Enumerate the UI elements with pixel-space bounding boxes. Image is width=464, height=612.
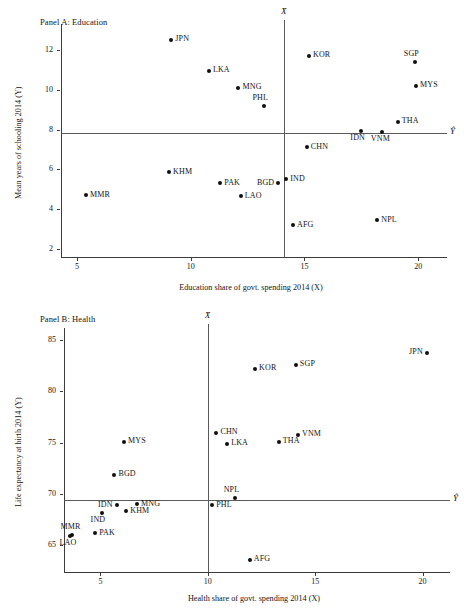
data-point-label: JPN: [379, 347, 423, 356]
data-point-label: BGD: [118, 469, 135, 478]
x-tick: [191, 258, 192, 261]
data-point: [307, 54, 311, 58]
x-axis-title: Education share of govt. spending 2014 (…: [61, 283, 441, 292]
panel-b-health: Panel B: Health 51015206570758085X̄ŶJPN…: [0, 300, 464, 612]
y-tick: [57, 50, 60, 51]
data-point-label: CHN: [311, 142, 328, 151]
data-point: [284, 177, 288, 181]
data-point-label: MMR: [61, 522, 81, 531]
y-axis-title: Life expectancy at birth 2014 (Y): [14, 397, 23, 507]
data-point-label: LAO: [59, 538, 76, 547]
data-point: [169, 38, 173, 42]
data-point-label: MMR: [90, 190, 110, 199]
panel-a-education: Panel A: Education 510152024681012X̄ŶJP…: [0, 0, 464, 300]
y-axis-title: Mean years of schooling 2014 (Y): [14, 86, 23, 199]
data-point: [294, 363, 298, 367]
data-point-label: PHL: [216, 500, 232, 509]
x-tick-label: 5: [80, 577, 120, 586]
y-tick: [57, 169, 60, 170]
data-point: [93, 531, 97, 535]
x-tick-label: 15: [284, 262, 324, 271]
y-mean-marker: Ŷ: [450, 126, 455, 136]
data-point: [253, 367, 257, 371]
data-point: [425, 351, 429, 355]
data-point: [239, 194, 243, 198]
y-tick: [60, 340, 63, 341]
y-tick: [60, 443, 63, 444]
y-tick-label: 12: [17, 45, 53, 54]
data-point: [248, 558, 252, 562]
data-point-label: AFG: [254, 554, 270, 563]
data-point-label: MNG: [242, 82, 261, 91]
panel-b-title: Panel B: Health: [40, 314, 95, 324]
data-point: [225, 442, 229, 446]
data-point: [124, 509, 128, 513]
y-mean-reference-line: [64, 500, 450, 501]
data-point-label: KOR: [313, 50, 330, 59]
data-point-label: KHM: [130, 506, 149, 515]
data-point: [122, 440, 126, 444]
x-tick-label: 15: [295, 577, 335, 586]
data-point: [233, 496, 237, 500]
data-point: [115, 503, 119, 507]
data-point-label: THA: [402, 116, 419, 125]
data-point: [218, 181, 222, 185]
x-tick-label: 20: [398, 262, 438, 271]
data-point-label: LAO: [245, 191, 262, 200]
data-point-label: THA: [283, 436, 300, 445]
y-tick-label: 80: [20, 386, 56, 395]
data-point: [396, 120, 400, 124]
x-tick: [100, 573, 101, 576]
data-point-label: NPL: [224, 485, 240, 494]
data-point-label: VNM: [371, 134, 390, 143]
data-point-label: IDN: [350, 133, 365, 142]
data-point-label: MYS: [420, 80, 438, 89]
data-point: [262, 104, 266, 108]
data-point: [210, 503, 214, 507]
x-mean-reference-line: [284, 20, 285, 257]
y-tick: [57, 249, 60, 250]
y-tick: [57, 209, 60, 210]
y-axis-line: [64, 328, 65, 572]
x-axis-line: [61, 257, 447, 258]
y-tick: [60, 391, 63, 392]
x-mean-marker: X̄: [281, 6, 287, 16]
x-axis-title: Health share of govt. spending 2014 (X): [64, 594, 444, 603]
y-tick-label: 85: [20, 335, 56, 344]
y-tick: [57, 130, 60, 131]
y-tick: [57, 90, 60, 91]
x-tick: [423, 573, 424, 576]
data-point-label: JPN: [175, 34, 189, 43]
y-tick: [60, 494, 63, 495]
y-mean-marker: Ŷ: [453, 493, 458, 503]
x-tick-label: 10: [188, 577, 228, 586]
data-point: [414, 84, 418, 88]
x-tick-label: 10: [171, 262, 211, 271]
data-point: [413, 60, 417, 64]
data-point-label: KOR: [259, 363, 276, 372]
data-point-label: KHM: [173, 167, 192, 176]
x-tick: [418, 258, 419, 261]
data-point-label: LKA: [213, 65, 230, 74]
data-point-label: SGP: [300, 359, 315, 368]
data-point: [167, 170, 171, 174]
data-point-label: PHL: [253, 93, 269, 102]
data-point-label: CHN: [220, 427, 237, 436]
data-point-label: VNM: [302, 429, 321, 438]
data-point: [236, 86, 240, 90]
x-tick: [208, 573, 209, 576]
data-point-label: BGD: [230, 178, 274, 187]
data-point: [207, 69, 211, 73]
y-tick-label: 4: [17, 204, 53, 213]
data-point: [214, 431, 218, 435]
data-point: [84, 193, 88, 197]
data-point-label: SGP: [404, 49, 419, 58]
x-tick: [304, 258, 305, 261]
x-axis-line: [64, 572, 450, 573]
x-mean-reference-line: [208, 324, 209, 572]
data-point-label: AFG: [297, 220, 313, 229]
data-point-label: LKA: [231, 438, 248, 447]
y-tick-label: 65: [20, 540, 56, 549]
y-tick-label: 70: [20, 489, 56, 498]
y-tick-label: 2: [17, 244, 53, 253]
